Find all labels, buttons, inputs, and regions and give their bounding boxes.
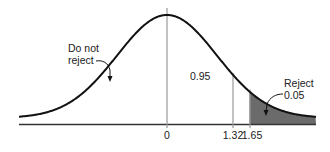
reject-label: Reject 0.05 xyxy=(284,77,314,101)
do-not-reject-label: Do not reject xyxy=(68,42,99,66)
tick-label-1.32: 1.32 xyxy=(223,129,243,141)
do-not-reject-line1: Do not xyxy=(68,42,99,54)
do-not-reject-line2: reject xyxy=(68,54,99,66)
tick-label-0: 0 xyxy=(164,129,170,141)
reject-line1: Reject xyxy=(284,77,314,89)
tick-label-1.65: 1.65 xyxy=(242,129,262,141)
do-not-reject-arrowhead xyxy=(108,76,113,82)
reject-area-value: 0.05 xyxy=(284,89,314,101)
acceptance-area-label: 0.95 xyxy=(190,70,210,82)
